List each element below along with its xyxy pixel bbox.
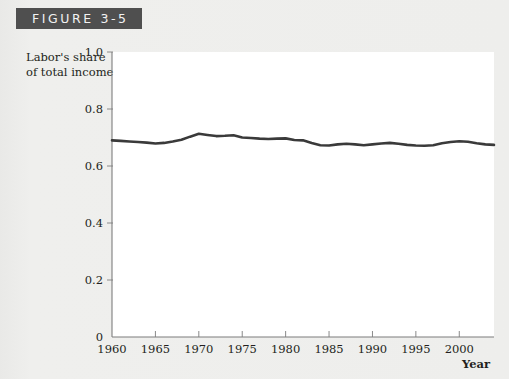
x-tick-label-group: 196019651970197519801985199019952000 xyxy=(97,342,474,356)
x-tick-label: 1975 xyxy=(228,342,257,356)
y-tick-label-group: 00.20.40.60.81.0 xyxy=(85,45,103,344)
y-tick-label: 0.8 xyxy=(85,102,103,116)
y-tick-label: 0.4 xyxy=(85,216,103,230)
labor-share-line xyxy=(112,134,494,146)
x-tick-label: 2000 xyxy=(445,342,474,356)
y-tick-label: 1.0 xyxy=(85,45,103,59)
tick-mark-group xyxy=(107,52,459,337)
x-tick-label: 1965 xyxy=(141,342,170,356)
x-tick-label: 1960 xyxy=(97,342,126,356)
x-tick-label: 1990 xyxy=(358,342,387,356)
chart-svg: 00.20.40.60.81.0 19601965197019751980198… xyxy=(0,0,509,379)
y-tick-label: 0.2 xyxy=(85,273,103,287)
x-tick-label: 1995 xyxy=(401,342,430,356)
x-tick-label: 1980 xyxy=(271,342,300,356)
figure-container: FIGURE 3-5 Labor's share of total income… xyxy=(0,0,509,379)
x-tick-label: 1970 xyxy=(184,342,213,356)
y-tick-label: 0.6 xyxy=(85,159,103,173)
x-tick-label: 1985 xyxy=(314,342,343,356)
